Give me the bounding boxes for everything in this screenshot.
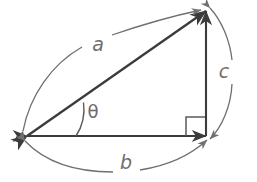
theta-arc-path [76,103,84,137]
side-a-label: a [92,33,104,55]
angle-theta-label: θ [87,101,98,122]
side-c-label: c [219,60,230,82]
measure-arc-b [25,140,207,172]
side-a-line [27,11,206,136]
measure-arc-b-left-segment [25,141,113,172]
measure-arc-c-lower-segment [210,84,232,139]
angle-theta-arc [76,103,84,137]
triangle-diagram-svg: a b c θ [0,0,257,182]
triangle-diagram-canvas: a b c θ [0,0,257,182]
measure-arc-b-right-segment [140,140,207,170]
measure-arc-a [23,10,201,131]
right-angle-icon [186,117,205,136]
measure-arc-c-upper-segment [210,8,232,60]
triangle-outline [27,11,206,136]
side-b-label: b [120,151,132,173]
right-angle-square [186,117,205,136]
